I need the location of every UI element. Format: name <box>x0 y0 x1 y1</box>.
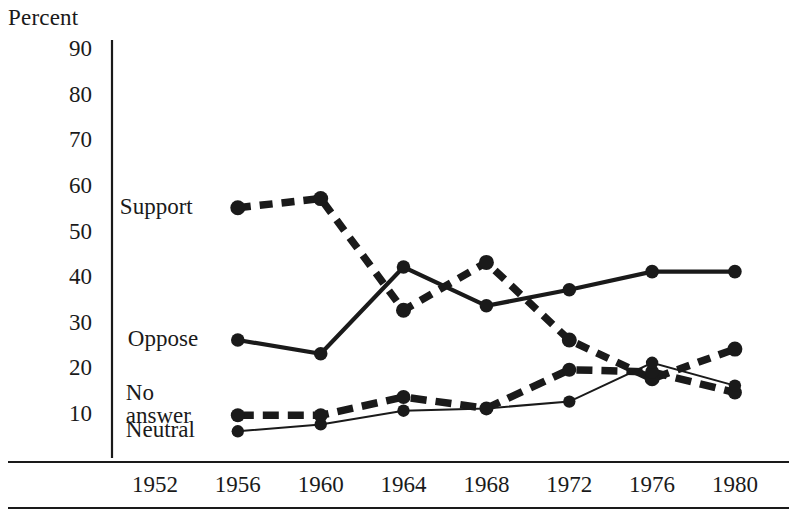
data-point <box>645 265 659 279</box>
data-point <box>562 333 577 348</box>
data-point <box>728 265 742 279</box>
data-point <box>397 390 411 404</box>
data-point <box>231 408 245 422</box>
data-point <box>396 303 411 318</box>
series-label-no-answer-line1: No <box>126 381 191 404</box>
data-point <box>563 283 577 297</box>
data-point <box>230 200 245 215</box>
plot-area <box>0 0 797 522</box>
series-neutral <box>232 357 742 438</box>
series-label-support: Support <box>120 195 193 218</box>
data-point <box>479 255 494 270</box>
series-layer <box>230 191 742 437</box>
series-label-neutral: Neutral <box>126 418 195 441</box>
data-point <box>397 405 409 417</box>
data-point <box>562 363 576 377</box>
data-point <box>563 395 575 407</box>
data-point <box>232 425 244 437</box>
data-point <box>480 299 494 313</box>
data-point <box>646 357 658 369</box>
data-point <box>231 333 245 347</box>
data-point <box>480 402 492 414</box>
chart-container: Percent 908070605040302010 1952195619601… <box>0 0 797 522</box>
series-oppose <box>231 260 742 360</box>
data-point <box>313 191 328 206</box>
data-point <box>729 379 741 391</box>
data-point <box>315 418 327 430</box>
data-point <box>314 347 328 361</box>
data-point <box>397 260 411 274</box>
series-label-oppose: Oppose <box>128 327 198 350</box>
series-support <box>230 191 742 386</box>
data-point <box>727 342 742 357</box>
